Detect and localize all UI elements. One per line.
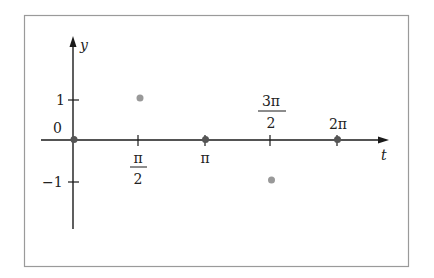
x-tick-label-three-pi-half-num: 3π	[262, 93, 280, 109]
x-tick-label-pi-half-den: 2	[134, 171, 143, 187]
y-tick-label-0: 0	[53, 120, 62, 136]
y-axis-label: y	[79, 37, 89, 53]
data-point	[268, 177, 275, 184]
data-point	[71, 136, 78, 143]
x-tick-label-three-pi-half-den: 2	[267, 115, 276, 131]
x-tick-label-pi: π	[200, 150, 209, 166]
x-tick-label-pi-half-num: π	[133, 150, 142, 166]
x-tick-label-two-pi: 2π	[329, 116, 347, 132]
x-axis-label: t	[381, 147, 387, 163]
chart-frame	[25, 16, 409, 267]
y-axis-arrow-icon	[70, 36, 77, 47]
x-axis-arrow-icon	[378, 137, 389, 144]
data-point	[137, 95, 144, 102]
y-tick-label-1: 1	[56, 92, 65, 108]
y-tick-label-neg1: −1	[42, 174, 63, 190]
data-point	[202, 136, 209, 143]
chart: t y 1 0 −1 π 2 π 3π 2 2π	[0, 0, 434, 278]
data-point	[334, 136, 341, 143]
